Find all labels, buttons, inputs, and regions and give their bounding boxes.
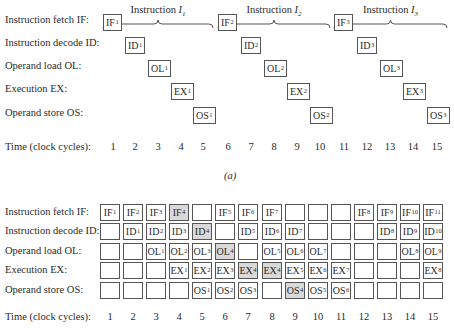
pipeline-cell: EX1 xyxy=(169,262,189,279)
stage-text: OS xyxy=(217,286,230,296)
time-tick: 10 xyxy=(309,141,331,152)
instruction-index: 3 xyxy=(371,42,374,49)
time-tick: 8 xyxy=(263,141,285,152)
empty-cell xyxy=(100,262,120,279)
instruction-index: 6 xyxy=(346,287,349,294)
stage-text: OL xyxy=(170,247,183,257)
time-tick: 5 xyxy=(192,141,214,152)
stage-text: OL xyxy=(383,64,396,74)
pipeline-cell: EX4 xyxy=(262,262,282,279)
instruction-index: 8 xyxy=(391,228,394,235)
stage-text: OS xyxy=(196,111,209,121)
stage-text: OL xyxy=(193,247,206,257)
stage-text: EX xyxy=(216,266,229,276)
instruction-index: 2 xyxy=(136,209,139,216)
time-tick: 4 xyxy=(170,141,192,152)
empty-cell xyxy=(308,223,328,240)
pipeline-cell: ID7 xyxy=(285,223,305,240)
pipeline-cell: OS3 xyxy=(238,282,258,299)
stage-text: ID xyxy=(244,41,255,51)
stage-text: ID xyxy=(288,227,299,237)
pipeline-cell: EX6 xyxy=(308,262,328,279)
stage-text: EX xyxy=(170,266,183,276)
stage-text: EX xyxy=(263,266,276,276)
stage-text: OL xyxy=(424,247,437,257)
instruction-index: 3 xyxy=(230,267,233,274)
pipeline-cell: ID4 xyxy=(192,223,212,240)
stage-text: OS xyxy=(430,111,443,121)
stage-label-b: Operand store OS: xyxy=(5,284,83,295)
pipeline-cell: EX3 xyxy=(215,262,235,279)
time-tick: 3 xyxy=(147,141,169,152)
stage-label-b: Instruction fetch IF: xyxy=(5,206,89,217)
instruction-index: 2 xyxy=(230,287,233,294)
pipeline-cell: IF8 xyxy=(354,204,374,221)
stage-text: ID xyxy=(380,227,391,237)
stage-box-os: OS3 xyxy=(427,107,450,124)
instruction-index: 1 xyxy=(207,287,210,294)
time-label-a: Time (clock cycles): xyxy=(5,141,91,152)
stage-label-a: Instruction decode ID: xyxy=(5,37,99,48)
instruction-index: 5 xyxy=(323,287,326,294)
instruction-index: 4 xyxy=(230,248,233,255)
stage-text: OS xyxy=(287,286,300,296)
instruction-index: 5 xyxy=(277,248,280,255)
time-tick: 6 xyxy=(217,141,239,152)
stage-box-os: OS2 xyxy=(310,107,333,124)
pipeline-cell: OL2 xyxy=(169,243,189,260)
time-tick: 7 xyxy=(240,141,262,152)
stage-label-a: Operand store OS: xyxy=(5,107,83,118)
stage-label-a: Operand load OL: xyxy=(5,60,81,71)
empty-cell xyxy=(215,223,235,240)
stage-label-b: Operand load OL: xyxy=(5,245,81,256)
stage-text: OL xyxy=(286,247,299,257)
instruction-index: 7 xyxy=(346,267,349,274)
empty-cell xyxy=(400,262,420,279)
stage-text: ID xyxy=(128,41,139,51)
instruction-index: 1 xyxy=(188,88,191,95)
instruction-index: 9 xyxy=(438,248,441,255)
stage-text: IF xyxy=(150,208,159,218)
stage-text: IF xyxy=(106,18,115,28)
stage-text: OL xyxy=(263,247,276,257)
time-tick: 7 xyxy=(237,311,259,322)
pipeline-cell: OS5 xyxy=(308,282,328,299)
pipeline-cell: IF10 xyxy=(400,204,420,221)
stage-text: ID xyxy=(241,227,252,237)
instruction-index: 8 xyxy=(415,248,418,255)
stage-text: OL xyxy=(267,64,280,74)
empty-cell xyxy=(354,223,374,240)
stage-text: IF xyxy=(266,208,275,218)
instruction-index: 7 xyxy=(275,209,278,216)
time-tick: 9 xyxy=(284,311,306,322)
time-tick: 9 xyxy=(286,141,308,152)
empty-cell xyxy=(123,262,143,279)
stage-box-ex: EX2 xyxy=(287,83,310,100)
instruction-index: 3 xyxy=(183,228,186,235)
time-tick: 6 xyxy=(214,311,236,322)
time-label-b: Time (clock cycles): xyxy=(5,311,91,322)
stage-text: ID xyxy=(172,227,183,237)
empty-cell xyxy=(354,262,374,279)
pipeline-cell: ID9 xyxy=(400,223,420,240)
pipeline-cell: OL8 xyxy=(400,243,420,260)
stage-label-a: Execution EX: xyxy=(5,83,67,94)
instruction-index: 6 xyxy=(276,228,279,235)
stage-text: ID xyxy=(360,41,371,51)
time-tick: 10 xyxy=(307,311,329,322)
stage-text: IF xyxy=(219,208,228,218)
pipeline-cell: EX5 xyxy=(285,262,305,279)
pipeline-cell: IF2 xyxy=(123,204,143,221)
pipeline-cell: ID1 xyxy=(123,223,143,240)
instruction-index: 4 xyxy=(182,209,185,216)
empty-cell xyxy=(354,243,374,260)
empty-cell xyxy=(377,282,397,299)
empty-cell xyxy=(423,282,443,299)
instruction-title: Instruction I3 xyxy=(341,4,441,18)
instruction-index: 3 xyxy=(443,112,446,119)
empty-cell xyxy=(169,282,189,299)
pipeline-cell: IF1 xyxy=(100,204,120,221)
instruction-index: 1 xyxy=(115,19,118,26)
instruction-index: 5 xyxy=(252,228,255,235)
stage-text: IF xyxy=(425,208,434,218)
